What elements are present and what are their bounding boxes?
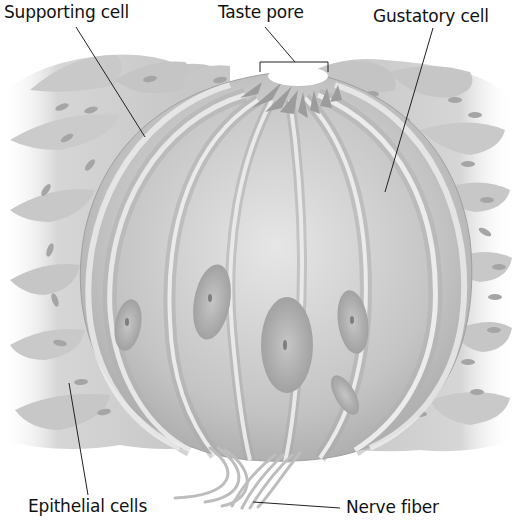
- taste-bud-diagram: Supporting cell Taste pore Gustatory cel…: [0, 0, 514, 522]
- label-taste-pore: Taste pore: [218, 4, 304, 21]
- taste-bud-illustration: [0, 0, 514, 522]
- label-gustatory-cell: Gustatory cell: [373, 8, 489, 25]
- nerve-fiber-leader: [253, 502, 340, 508]
- taste-pore-leader: [265, 27, 295, 62]
- label-supporting-cell: Supporting cell: [4, 4, 129, 21]
- label-epithelial-cells: Epithelial cells: [28, 498, 147, 515]
- label-nerve-fiber: Nerve fiber: [346, 499, 439, 516]
